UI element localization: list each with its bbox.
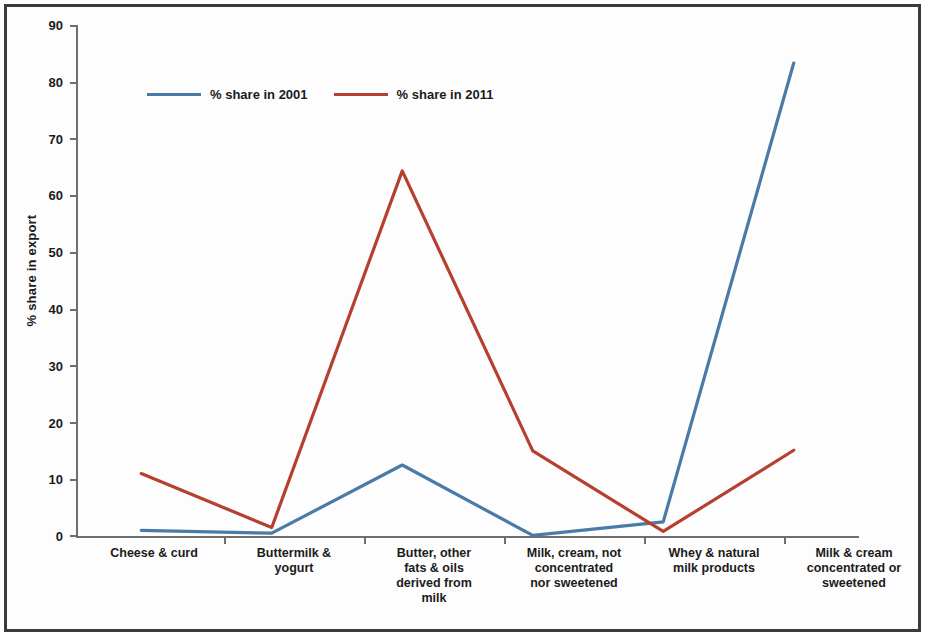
legend-entry-2001: % share in 2001 xyxy=(147,87,308,102)
legend-entry-2011: % share in 2011 xyxy=(334,87,494,102)
x-category-label-6: Milk & creamconcentrated orsweetened xyxy=(784,546,924,591)
line-chart: % share in export 90 80 70 60 50 40 30 2… xyxy=(7,7,924,635)
legend-swatch-2001 xyxy=(147,93,201,96)
x-category-label-5: Whey & naturalmilk products xyxy=(644,546,784,576)
series-line-2001 xyxy=(141,63,794,535)
legend: % share in 2001 % share in 2011 xyxy=(147,87,493,102)
x-category-label-4: Milk, cream, notconcentratednor sweetene… xyxy=(504,546,644,591)
series-line-2011 xyxy=(141,171,794,532)
legend-label-2001: % share in 2001 xyxy=(210,87,308,102)
x-category-label-1: Cheese & curd xyxy=(84,546,224,561)
chart-frame: % share in export 90 80 70 60 50 40 30 2… xyxy=(4,4,921,632)
x-category-label-3: Butter, otherfats & oilsderived frommilk xyxy=(364,546,504,606)
legend-swatch-2011 xyxy=(334,93,388,96)
x-category-label-2: Buttermilk &yogurt xyxy=(224,546,364,576)
legend-label-2011: % share in 2011 xyxy=(397,87,494,102)
